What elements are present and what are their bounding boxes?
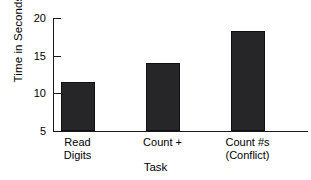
bar bbox=[61, 82, 95, 131]
bar bbox=[231, 31, 265, 131]
bar-chart-figure: Time in Seconds 5101520 ReadDigitsCount … bbox=[0, 0, 311, 180]
y-axis-line bbox=[53, 18, 54, 132]
x-axis-line bbox=[53, 131, 308, 132]
x-axis-title: Task bbox=[0, 161, 311, 174]
y-tick-label: 15 bbox=[34, 50, 46, 61]
y-tick-mark bbox=[54, 18, 61, 19]
y-tick-mark bbox=[54, 56, 61, 57]
y-tick-label: 5 bbox=[40, 126, 46, 137]
category-label-line: Count #s bbox=[225, 136, 269, 149]
x-axis-category-label: Count + bbox=[143, 136, 182, 149]
x-axis-category-label: Count #s(Conflict) bbox=[225, 136, 269, 162]
bar bbox=[146, 63, 180, 131]
category-label-line: Count + bbox=[143, 136, 182, 149]
category-label-line: Read bbox=[64, 136, 92, 149]
y-tick-label: 20 bbox=[34, 13, 46, 24]
x-axis-category-label: ReadDigits bbox=[64, 136, 92, 162]
y-tick-label: 10 bbox=[34, 88, 46, 99]
y-axis-title: Time in Seconds bbox=[10, 0, 26, 101]
plot-area: 5101520 bbox=[53, 18, 308, 132]
